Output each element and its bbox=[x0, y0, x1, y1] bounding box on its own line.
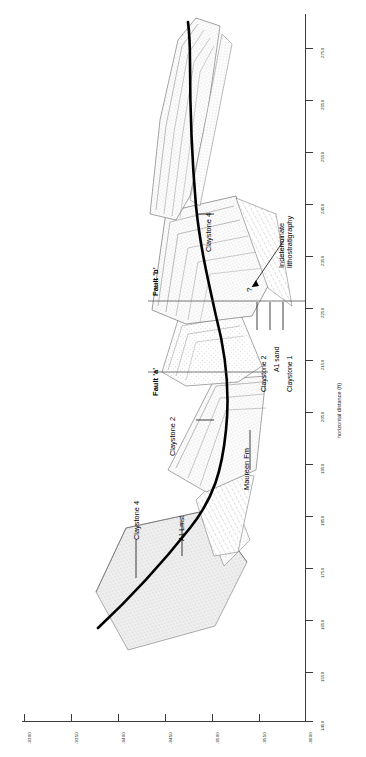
claystone-4-lower-label: Claystone 4 bbox=[132, 501, 141, 540]
maureen-fm-label: Maureen Fm bbox=[242, 448, 251, 490]
horizontal-tick-label: 1450 bbox=[320, 721, 325, 731]
horizontal-tick-label: 2650 bbox=[320, 100, 325, 110]
claystone-1-label: Claystone 1 bbox=[286, 356, 293, 392]
horizontal-tick bbox=[306, 412, 313, 413]
depth-tick-label: -9500 bbox=[215, 732, 220, 744]
depth-tick-label: -9350 bbox=[74, 732, 79, 744]
horizontal-tick-label: 1950 bbox=[320, 464, 325, 474]
horizontal-tick-label: 1550 bbox=[320, 672, 325, 682]
depth-tick-label: -9600 bbox=[308, 732, 313, 744]
depth-tick bbox=[212, 714, 213, 721]
depth-tick bbox=[165, 714, 166, 721]
horizontal-axis-line bbox=[305, 14, 306, 722]
cross-section-graphic bbox=[0, 0, 366, 757]
depth-tick-label: -9550 bbox=[262, 732, 267, 744]
depth-tick bbox=[24, 714, 25, 721]
horizontal-tick bbox=[306, 360, 313, 361]
horizontal-tick bbox=[306, 48, 313, 49]
a1-sand-label: A1 sand bbox=[273, 347, 280, 372]
fault-b-label: Fault 'b' bbox=[151, 268, 160, 297]
cross-section-figure: -9300 -9350 -9400 -9450 -9500 -9550 -960… bbox=[0, 0, 366, 757]
stratigraphic-bands bbox=[96, 18, 292, 650]
horizontal-tick bbox=[306, 152, 313, 153]
horizontal-tick bbox=[306, 308, 313, 309]
horizontal-tick-label: 2750 bbox=[320, 48, 325, 58]
horizontal-tick bbox=[306, 568, 313, 569]
depth-tick bbox=[259, 714, 260, 721]
claystone-4-upper-label: Claystone 4 bbox=[204, 213, 213, 252]
horizontal-tick-label: 2550 bbox=[320, 152, 325, 162]
horizontal-tick-label: 1850 bbox=[320, 516, 325, 526]
claystone-2-leader-label: Claystone 2 bbox=[260, 356, 267, 392]
horizontal-tick bbox=[306, 672, 313, 673]
horizontal-tick bbox=[306, 464, 313, 465]
claystone-2-mid-label: Claystone 2 bbox=[168, 417, 177, 456]
horizontal-tick bbox=[306, 256, 313, 257]
indeterminate-lithostratigraphy-label: Indeterminate lithostratigraphy bbox=[278, 216, 295, 268]
depth-tick bbox=[71, 714, 72, 721]
depth-axis-line bbox=[22, 721, 306, 722]
fault-a-label: Fault 'a' bbox=[151, 368, 160, 396]
depth-tick-label: -9400 bbox=[121, 732, 126, 744]
horizontal-tick-label: 2150 bbox=[320, 360, 325, 370]
horizontal-tick-label: 1650 bbox=[320, 620, 325, 630]
query-marker: ? bbox=[245, 288, 254, 292]
horizontal-tick bbox=[306, 721, 313, 722]
horizontal-tick bbox=[306, 516, 313, 517]
a1-lmst-label: A1 Lmst bbox=[178, 516, 185, 541]
depth-tick-label: -9300 bbox=[27, 732, 32, 744]
horizontal-tick-label: 2050 bbox=[320, 412, 325, 422]
horizontal-tick-label: 2450 bbox=[320, 204, 325, 214]
depth-tick bbox=[118, 714, 119, 721]
horizontal-tick bbox=[306, 620, 313, 621]
horizontal-tick-label: 2350 bbox=[320, 256, 325, 266]
horizontal-axis-title: horizontal distance (ft) bbox=[336, 383, 342, 438]
depth-tick-label: -9450 bbox=[168, 732, 173, 744]
horizontal-tick-label: 1750 bbox=[320, 568, 325, 578]
horizontal-tick bbox=[306, 204, 313, 205]
horizontal-tick-label: 2250 bbox=[320, 308, 325, 318]
horizontal-tick bbox=[306, 100, 313, 101]
